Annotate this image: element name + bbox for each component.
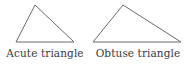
acute-triangle — [16, 5, 74, 42]
acute-triangle-label: Acute triangle — [6, 47, 83, 59]
obtuse-triangle — [93, 5, 181, 42]
obtuse-triangle-label: Obtuse triangle — [96, 47, 181, 59]
